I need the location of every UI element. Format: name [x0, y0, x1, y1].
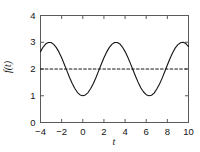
x-tick-label: −4 [35, 127, 46, 137]
x-tick-label: 2 [101, 127, 106, 137]
plot-area [0, 0, 200, 152]
y-tick-label: 1 [30, 91, 35, 101]
x-tick-label: 4 [122, 127, 127, 137]
x-tick-label: 10 [183, 127, 194, 137]
y-tick-label: 2 [30, 64, 35, 74]
x-axis-title: t [113, 137, 116, 147]
x-tick-label: 0 [80, 127, 85, 137]
y-tick-label: 4 [30, 11, 35, 21]
x-tick-label: 8 [165, 127, 170, 137]
y-tick-label: 3 [30, 38, 35, 48]
chart-figure: 01234 −4−20246810 t f(t) [0, 0, 200, 152]
x-tick-label: 6 [144, 127, 149, 137]
x-tick-label: −2 [56, 127, 67, 137]
y-axis-title: f(t) [3, 61, 13, 73]
